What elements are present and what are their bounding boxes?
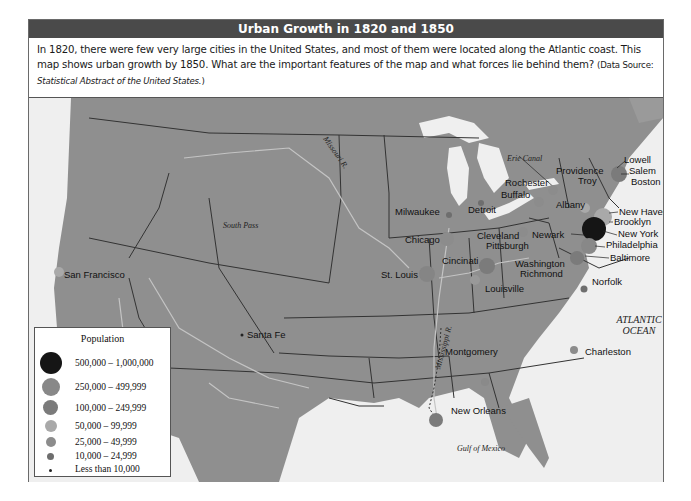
- map-figure: Urban Growth in 1820 and 1850 In 1820, t…: [28, 19, 664, 482]
- city-label-lowell: Lowell: [624, 155, 651, 165]
- city-label-new-orleans: New Orleans: [451, 406, 506, 416]
- city-label-boston: Boston: [631, 177, 661, 187]
- cincinati-marker: [479, 258, 495, 274]
- city-label-charleston: Charleston: [585, 347, 631, 357]
- city-label-milwaukee: Milwaukee: [395, 207, 440, 217]
- city-label-richmond: Richmond: [520, 269, 563, 279]
- buffalo-marker: [534, 197, 544, 207]
- erie-canal-label: Erie Canal: [507, 154, 542, 163]
- norfolk-marker: [581, 286, 588, 293]
- chicago-marker: [440, 232, 454, 246]
- milwaukee-marker: [446, 212, 452, 218]
- new-york-marker: [582, 217, 606, 241]
- city-label-pittsburgh: Pittsburgh: [486, 241, 529, 251]
- city-label-st-louis: St. Louis: [381, 270, 418, 280]
- city-label-louisville: Louisville: [485, 284, 524, 294]
- baltimore-marker: [570, 251, 584, 265]
- legend-swatch: [49, 469, 52, 472]
- legend-item: 250,000 – 499,999: [35, 378, 170, 396]
- legend-swatch: [42, 378, 60, 396]
- us-map: San Francisco Santa Fe Milwaukee Chicago…: [29, 97, 663, 482]
- gulf-of-mexico-label: Gulf of Mexico: [457, 444, 505, 453]
- city-label-troy: Troy: [578, 176, 597, 186]
- city-label-baltimore: Baltimore: [610, 253, 650, 263]
- st-louis-marker: [419, 266, 435, 282]
- new-orleans-marker: [429, 413, 443, 427]
- charleston-marker: [570, 346, 578, 354]
- santa-fe-marker: [241, 334, 244, 337]
- pittsburgh-marker: [518, 227, 528, 237]
- figure-description: In 1820, there were few very large citie…: [37, 42, 657, 89]
- city-label-philadelphia: Philadelphia: [606, 240, 658, 250]
- city-label-newark: Newark: [532, 230, 564, 240]
- city-label-brooklyn: Brooklyn: [614, 217, 651, 227]
- city-label-norfolk: Norfolk: [592, 277, 622, 287]
- legend-swatch: [40, 352, 62, 374]
- city-label-salem: Salem: [629, 166, 656, 176]
- city-label-providence: Providence: [556, 166, 604, 176]
- legend-item: 500,000 – 1,000,000: [35, 352, 170, 374]
- city-label-santa-fe: Santa Fe: [247, 330, 286, 340]
- city-label-montgomery: Montgomery: [445, 347, 498, 357]
- atlantic-ocean-label: ATLANTICOCEAN: [609, 314, 663, 336]
- legend-swatch: [43, 400, 58, 415]
- figure-title: Urban Growth in 1820 and 1850: [29, 20, 663, 38]
- legend-item: 100,000 – 249,999: [35, 400, 170, 416]
- legend-item: Less than 10,000: [35, 464, 170, 480]
- legend-swatch: [46, 437, 56, 447]
- city-label-buffalo: Buffalo: [501, 190, 530, 200]
- city-label-rochester: Rochester: [505, 178, 548, 188]
- population-legend: Population 500,000 – 1,000,000 250,000 –…: [34, 327, 171, 477]
- legend-swatch: [45, 420, 57, 432]
- city-label-san-francisco: San Francisco: [64, 270, 125, 280]
- city-label-new-york: New York: [618, 229, 658, 239]
- description-text: In 1820, there were few very large citie…: [37, 44, 641, 70]
- south-pass-label: South Pass: [223, 221, 258, 230]
- city-label-albany: Albany: [556, 200, 585, 210]
- city-label-chicago: Chicago: [405, 235, 440, 245]
- city-label-cincinati: Cincinati: [442, 256, 478, 266]
- san-francisco-marker: [54, 267, 64, 277]
- legend-item: 50,000 – 99,999: [35, 419, 170, 435]
- legend-swatch: [47, 453, 54, 460]
- montgomery-marker: [481, 378, 489, 386]
- philadelphia-marker: [581, 238, 597, 254]
- louisville-marker: [470, 275, 480, 285]
- city-label-detroit: Detroit: [468, 205, 496, 215]
- legend-item: 25,000 – 49,999: [35, 435, 170, 451]
- legend-title: Population: [35, 333, 170, 344]
- rochester-marker: [548, 185, 558, 195]
